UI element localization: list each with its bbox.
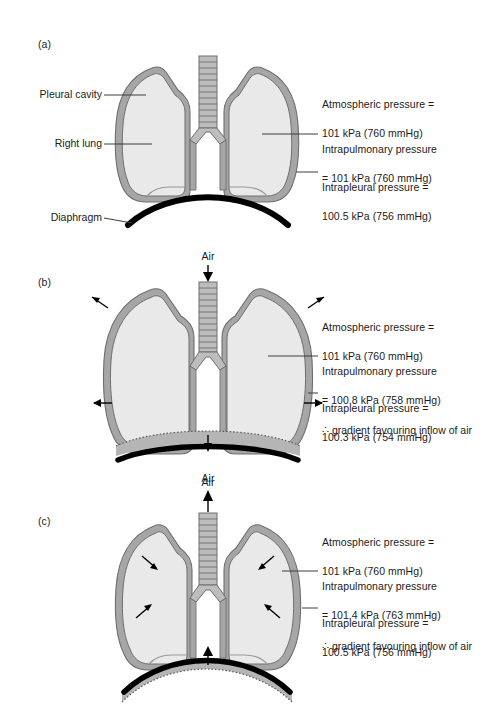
callout-line-1: Intrapulmonary pressure bbox=[322, 142, 437, 157]
callout-line-1: Atmospheric pressure = bbox=[322, 535, 434, 550]
callout-line-1: Intrapleural pressure = bbox=[322, 401, 432, 416]
label-right-lung: Right lung bbox=[10, 137, 102, 149]
right-lung-shape bbox=[115, 525, 192, 670]
left-lung-shape bbox=[222, 289, 313, 454]
trachea bbox=[190, 513, 226, 658]
label-pleural-cavity: Pleural cavity bbox=[10, 88, 102, 100]
leader-diaphragm bbox=[104, 218, 132, 223]
air-label-top: Air bbox=[178, 476, 238, 488]
callout-line-2: 100.5 kPa (756 mmHg) bbox=[322, 209, 432, 224]
callout-intrapleural-pressure-c: Intrapleural pressure = 100.5 kPa (756 m… bbox=[322, 601, 432, 674]
left-lung-shape bbox=[224, 67, 299, 202]
air-outflow-arrow bbox=[203, 490, 213, 512]
label-diaphragm: Diaphragm bbox=[10, 211, 102, 223]
respiration-pressure-figure: (a) bbox=[0, 0, 504, 725]
callout-line-1: Intrapulmonary pressure bbox=[322, 579, 441, 594]
air-label-top: Air bbox=[178, 250, 238, 262]
trachea bbox=[190, 282, 226, 440]
callout-intrapleural-pressure-b: Intrapleural pressure = 100.3 kPa (754 m… bbox=[322, 386, 432, 459]
callout-intrapleural-pressure-a: Intrapleural pressure = 100.5 kPa (756 m… bbox=[322, 165, 432, 238]
gradient-note-c: ∴ gradient favouring inflow of air bbox=[322, 640, 472, 652]
right-lung-shape bbox=[115, 67, 190, 202]
callout-line-1: Intrapleural pressure = bbox=[322, 180, 432, 195]
left-lung-shape bbox=[224, 525, 301, 670]
air-inflow-arrow bbox=[203, 265, 213, 282]
panel-a: (a) bbox=[0, 20, 504, 250]
panel-b: (b) bbox=[0, 250, 504, 490]
gradient-note-b: ∴ gradient favouring inflow of air bbox=[322, 424, 472, 436]
right-lung-shape bbox=[103, 289, 194, 454]
callout-line-1: Intrapulmonary pressure bbox=[322, 364, 441, 379]
callout-line-1: Intrapleural pressure = bbox=[322, 616, 432, 631]
trachea bbox=[190, 56, 226, 190]
callout-line-1: Atmospheric pressure = bbox=[322, 97, 434, 112]
panel-c: (c) bbox=[0, 480, 504, 725]
callout-line-1: Atmospheric pressure = bbox=[322, 320, 434, 335]
